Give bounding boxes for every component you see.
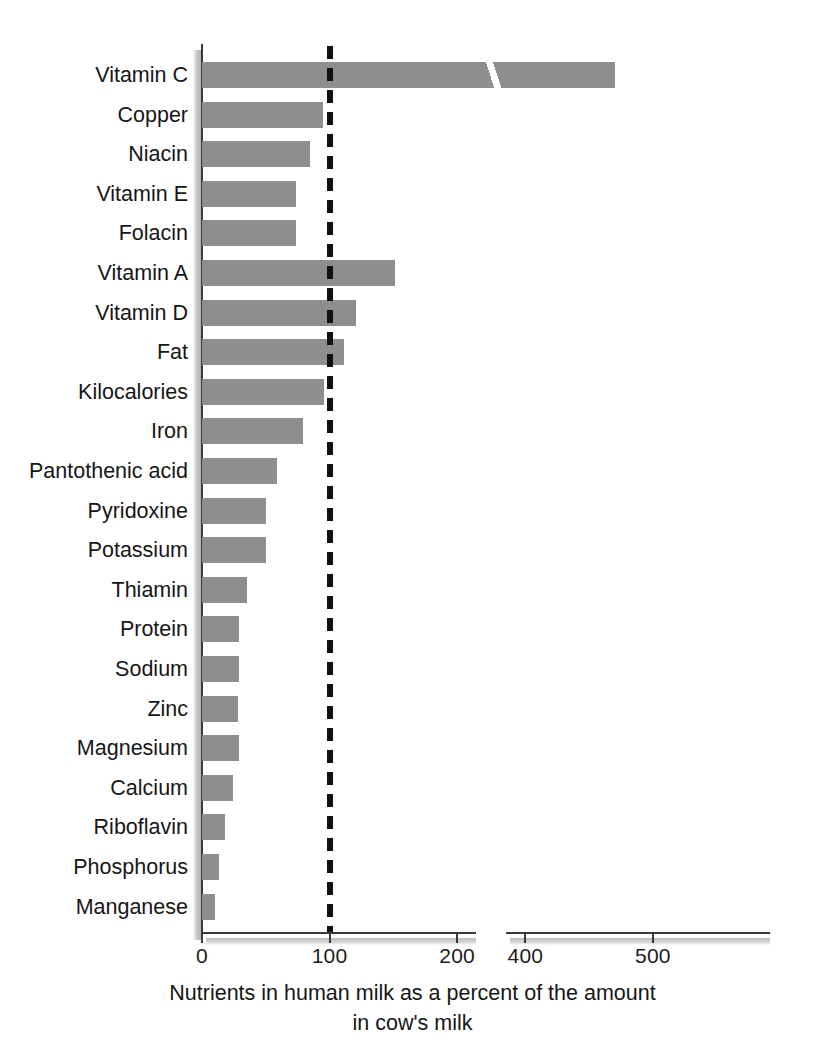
bar-vitamin-d [202, 300, 356, 326]
y-label-protein: Protein [120, 616, 188, 642]
y-label-thiamin: Thiamin [112, 577, 188, 603]
bar-vitamin-c [202, 62, 615, 88]
x-tick-0 [201, 934, 203, 943]
y-label-kilocalories: Kilocalories [78, 379, 188, 405]
x-tick-label-500: 500 [635, 944, 671, 968]
x-axis-line-segment-2 [506, 932, 770, 934]
bar-protein [202, 616, 239, 642]
y-label-iron: Iron [151, 418, 188, 444]
y-label-zinc: Zinc [147, 696, 188, 722]
y-label-vitamin-d: Vitamin D [95, 300, 188, 326]
y-axis-shadow [193, 50, 201, 940]
caption-line-2: in cow's milk [0, 1008, 825, 1038]
y-label-vitamin-e: Vitamin E [96, 181, 188, 207]
y-label-fat: Fat [157, 339, 188, 365]
y-label-potassium: Potassium [88, 537, 188, 563]
x-axis-line-segment-1 [202, 932, 476, 934]
x-axis-break-marker [474, 928, 498, 950]
reference-line-100-percent [327, 46, 333, 934]
x-tick-100 [329, 934, 331, 943]
x-tick-label-100: 100 [312, 944, 348, 968]
bar-folacin [202, 220, 296, 246]
bar-axis-break-slash [479, 218, 509, 248]
x-tick-500 [652, 934, 654, 943]
bar-manganese [202, 894, 215, 920]
y-label-magnesium: Magnesium [77, 735, 188, 761]
bar-kilocalories [202, 379, 324, 405]
bar-riboflavin [202, 814, 225, 840]
y-label-manganese: Manganese [76, 894, 188, 920]
bar-pyridoxine [202, 498, 266, 524]
nutrient-comparison-figure: Vitamin CCopperNiacinVitamin EFolacinVit… [0, 0, 825, 1041]
bar-sodium [202, 656, 239, 682]
bar-copper [202, 102, 323, 128]
bar-axis-break-slash [479, 179, 509, 209]
bar-axis-break-slash [479, 100, 509, 130]
x-tick-label-200: 200 [439, 944, 475, 968]
figure-caption: Nutrients in human milk as a percent of … [0, 978, 825, 1038]
bar-iron [202, 418, 303, 444]
y-label-vitamin-a: Vitamin A [98, 260, 188, 286]
bar-axis-break-slash [479, 60, 509, 90]
bar-vitamin-a [202, 260, 395, 286]
bar-niacin [202, 141, 310, 167]
bar-pantothenic-acid [202, 458, 277, 484]
bar-zinc [202, 696, 238, 722]
y-label-sodium: Sodium [115, 656, 188, 682]
y-label-copper: Copper [117, 102, 188, 128]
y-label-niacin: Niacin [128, 141, 188, 167]
x-tick-200 [456, 934, 458, 943]
plot-area: Vitamin CCopperNiacinVitamin EFolacinVit… [0, 0, 825, 941]
y-label-vitamin-c: Vitamin C [95, 62, 188, 88]
bar-potassium [202, 537, 266, 563]
x-tick-label-0: 0 [196, 944, 208, 968]
y-label-riboflavin: Riboflavin [94, 814, 188, 840]
caption-line-1: Nutrients in human milk as a percent of … [0, 978, 825, 1008]
y-label-pyridoxine: Pyridoxine [88, 498, 188, 524]
y-label-phosphorus: Phosphorus [73, 854, 188, 880]
y-label-folacin: Folacin [119, 220, 188, 246]
bar-vitamin-e [202, 181, 296, 207]
bar-calcium [202, 775, 233, 801]
x-tick-400 [524, 934, 526, 943]
y-label-calcium: Calcium [110, 775, 188, 801]
bar-fat [202, 339, 344, 365]
bar-phosphorus [202, 854, 219, 880]
bar-magnesium [202, 735, 239, 761]
x-tick-label-400: 400 [508, 944, 544, 968]
bar-thiamin [202, 577, 247, 603]
y-label-pantothenic-acid: Pantothenic acid [29, 458, 188, 484]
bar-axis-break-slash [479, 139, 509, 169]
